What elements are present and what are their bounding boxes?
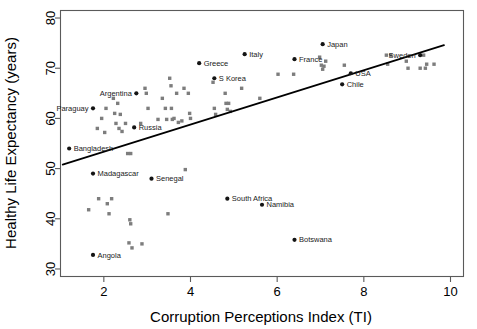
data-point — [128, 218, 131, 221]
data-point — [127, 241, 130, 244]
data-point-labeled — [91, 253, 95, 257]
point-label: Italy — [249, 50, 263, 59]
data-point — [189, 117, 192, 120]
point-label: Madagascar — [98, 169, 140, 178]
x-tick-label-6: 6 — [274, 284, 281, 299]
data-point — [165, 118, 168, 121]
y-tick-label-80: 80 — [43, 11, 58, 25]
point-label: Namibia — [267, 200, 295, 209]
data-point — [103, 131, 106, 134]
y-axis-title: Healthy Life Expectancy (years) — [2, 37, 19, 249]
data-point-labeled — [212, 76, 216, 80]
data-point — [182, 87, 185, 90]
data-point-labeled — [197, 61, 201, 65]
data-point — [146, 107, 149, 110]
data-point — [213, 107, 216, 110]
data-point — [180, 119, 183, 122]
data-point — [156, 118, 159, 121]
data-point — [113, 112, 116, 115]
y-tick-label-30: 30 — [43, 262, 58, 276]
data-point-labeled — [340, 82, 344, 86]
data-point — [321, 68, 324, 71]
data-point — [104, 107, 107, 110]
point-label: Paraguay — [56, 104, 88, 113]
data-point — [188, 112, 191, 115]
data-point-labeled — [349, 71, 353, 75]
point-label: France — [299, 55, 322, 64]
data-point — [406, 67, 409, 70]
data-point — [175, 92, 178, 95]
data-point — [107, 212, 110, 215]
data-point-labeled — [243, 52, 247, 56]
data-point — [211, 81, 214, 84]
point-label: Greece — [204, 59, 229, 68]
data-point — [172, 117, 175, 120]
data-point — [116, 102, 119, 105]
data-point — [292, 73, 295, 76]
data-point — [129, 152, 132, 155]
data-point — [226, 108, 229, 111]
data-point — [276, 73, 279, 76]
data-point — [168, 77, 171, 80]
data-point — [169, 84, 172, 87]
data-point-labeled — [91, 172, 95, 176]
data-point — [184, 168, 187, 171]
data-point-labeled — [134, 91, 138, 95]
data-point — [114, 122, 117, 125]
data-point — [240, 87, 243, 90]
data-point — [97, 197, 100, 200]
data-point — [120, 130, 123, 133]
data-point-labels: ParaguayBangladeshArgentinaRussiaMadagas… — [56, 40, 415, 260]
data-point — [119, 113, 122, 116]
data-point — [166, 212, 169, 215]
data-point — [87, 208, 90, 211]
x-tick-label-4: 4 — [187, 284, 194, 299]
data-point-labeled — [67, 146, 71, 150]
data-point — [124, 122, 127, 125]
y-tick-label-60: 60 — [43, 111, 58, 125]
scatter-plot-figure: 304050607080 246810 ParaguayBangladeshAr… — [0, 0, 477, 329]
x-tick-label-8: 8 — [360, 284, 367, 299]
y-tick-label-50: 50 — [43, 161, 58, 175]
data-point — [223, 92, 226, 95]
data-point — [425, 63, 428, 66]
point-label: Japan — [327, 40, 347, 49]
point-label: Senegal — [156, 174, 184, 183]
data-point — [117, 127, 120, 130]
data-point — [129, 222, 132, 225]
point-label: S Korea — [219, 74, 247, 83]
data-point-labeled — [91, 106, 95, 110]
data-point — [110, 197, 113, 200]
data-point — [405, 59, 408, 62]
data-point — [96, 127, 99, 130]
point-label: Argentina — [100, 89, 133, 98]
data-point — [324, 59, 327, 62]
data-point — [140, 242, 143, 245]
data-point — [100, 117, 103, 120]
data-point — [130, 246, 133, 249]
data-point — [177, 121, 180, 124]
data-point — [418, 67, 421, 70]
unlabeled-data-points — [87, 53, 436, 249]
point-label: Sweden — [389, 51, 416, 60]
data-point-labeled — [418, 53, 422, 57]
data-point-labeled — [225, 197, 229, 201]
point-label: USA — [355, 69, 370, 78]
point-label: Russia — [139, 123, 163, 132]
y-axis-ticks: 304050607080 — [43, 11, 61, 276]
data-point — [161, 97, 164, 100]
data-point — [385, 53, 388, 56]
x-tick-label-10: 10 — [443, 284, 457, 299]
data-point — [424, 67, 427, 70]
data-point — [143, 87, 146, 90]
point-label: Bangladesh — [74, 144, 114, 153]
data-point-labeled — [292, 238, 296, 242]
data-point — [126, 152, 129, 155]
y-tick-label-40: 40 — [43, 212, 58, 226]
data-point — [106, 202, 109, 205]
chart-canvas: 304050607080 246810 ParaguayBangladeshAr… — [0, 0, 477, 329]
point-label: Angola — [98, 251, 122, 260]
data-point — [343, 64, 346, 67]
point-label: Chile — [347, 80, 364, 89]
data-point-labeled — [132, 125, 136, 129]
